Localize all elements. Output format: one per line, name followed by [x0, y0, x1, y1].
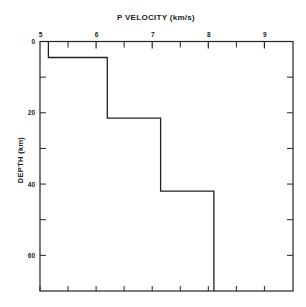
x-tick-label: 6	[95, 31, 99, 38]
x-tick-label: 5	[39, 31, 43, 38]
x-axis-ticks	[40, 42, 264, 292]
x-tick-label: 9	[263, 31, 267, 38]
chart-title: P VELOCITY (km/s)	[117, 13, 195, 22]
plot-frame	[40, 42, 293, 292]
y-tick-label: 40	[28, 181, 36, 188]
velocity-depth-chart: P VELOCITY (km/s) DEPTH (km) 56789 02040…	[0, 0, 306, 307]
x-tick-label: 8	[207, 31, 211, 38]
velocity-profile-line	[48, 42, 214, 292]
y-tick-label: 20	[28, 109, 36, 116]
y-tick-label: 60	[28, 252, 36, 259]
x-tick-label: 7	[151, 31, 155, 38]
y-tick-label: 0	[31, 38, 35, 45]
y-axis-tick-labels: 0204060	[28, 38, 36, 259]
y-axis-label: DEPTH (km)	[16, 137, 25, 184]
y-axis-ticks	[40, 77, 293, 255]
x-axis-tick-labels: 56789	[39, 31, 267, 38]
